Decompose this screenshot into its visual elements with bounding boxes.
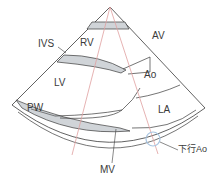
- ivs: [57, 55, 126, 73]
- label-ao: Ao: [144, 70, 156, 80]
- label-pw: PW: [27, 103, 43, 113]
- echo-diagram: RV IVS AV LV Ao LA PW MV 下行Ao: [0, 0, 218, 181]
- label-ivs: IVS: [38, 39, 54, 49]
- rv-wall: [87, 22, 129, 29]
- label-la: LA: [158, 105, 170, 115]
- label-mv: MV: [100, 165, 115, 175]
- label-rv: RV: [80, 38, 94, 48]
- label-descending-aorta: 下行Ao: [178, 145, 207, 154]
- label-lv: LV: [54, 78, 66, 88]
- label-av: AV: [152, 31, 165, 41]
